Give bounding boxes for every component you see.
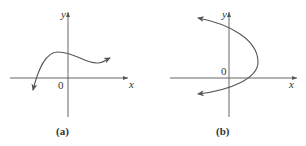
caption-b: (b) (216, 125, 230, 138)
origin-label: 0 (221, 65, 227, 77)
panel-b: y x 0 (b) (170, 8, 297, 138)
x-axis-label: x (288, 78, 294, 90)
figure-canvas: y x 0 (a) y x 0 (b) (0, 0, 306, 146)
panel-a: y x 0 (a) (10, 8, 134, 138)
curve-b-top (198, 18, 258, 62)
curve-a (33, 52, 58, 90)
y-axis-label: y (60, 8, 66, 20)
y-axis-label: y (221, 8, 227, 20)
curve-a-right (58, 52, 110, 63)
x-axis-label: x (128, 78, 134, 90)
origin-label: 0 (58, 79, 64, 91)
caption-a: (a) (56, 125, 69, 138)
